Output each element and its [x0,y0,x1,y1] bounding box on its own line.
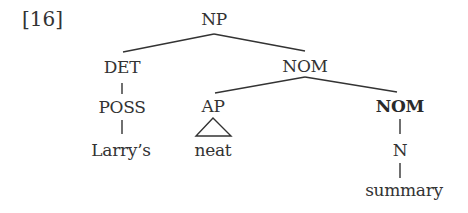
node-n: N [393,142,408,159]
example-number: [16] [22,9,63,29]
node-nom-head: NOM [376,98,424,115]
terminal-summary: summary [365,182,443,199]
node-det: DET [104,59,140,76]
node-poss: POSS [98,99,145,116]
ap-triangle-icon [196,118,231,136]
branch-np-det [123,34,214,52]
branch-np-nom [214,34,305,51]
node-np: NP [201,11,227,28]
terminal-neat: neat [195,142,232,159]
syntax-tree-diagram: [16] NP DET NOM POSS AP NOM N Larry’s ne… [0,0,468,213]
node-ap: AP [201,98,224,115]
branch-nom-ap [215,77,305,93]
node-nom: NOM [282,58,327,75]
terminal-larrys: Larry’s [91,142,150,159]
branch-nom-nom [305,77,397,92]
